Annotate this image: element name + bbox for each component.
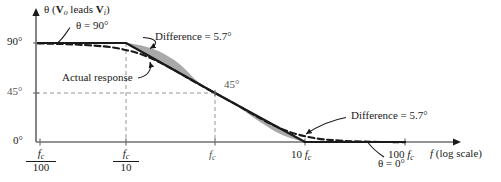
xtick-10fc-sub: c xyxy=(308,153,312,162)
annotation-theta-90: θ = 90° xyxy=(76,20,108,31)
idealized-response-curve xyxy=(38,43,405,142)
leader-theta-90 xyxy=(57,28,70,44)
xtick-fc-sub: c xyxy=(212,153,216,162)
y-axis-title-vo: V xyxy=(56,3,64,15)
xtick-fc-over-10-numerator: fc xyxy=(113,148,139,161)
annotation-theta-0: θ = 0° xyxy=(378,158,405,169)
y-axis-title-leads: leads xyxy=(68,3,96,15)
annotation-difference-lower: Difference = 5.7° xyxy=(351,110,428,121)
xtick-label-fc-over-10: fc 10 xyxy=(113,148,139,174)
y-axis-title-vi: V xyxy=(96,3,104,15)
leader-theta-0 xyxy=(368,143,384,158)
xtick-label-fc: fc xyxy=(209,149,216,162)
ytick-label-90: 90° xyxy=(7,36,22,47)
leader-difference-lower xyxy=(306,118,346,135)
y-axis-title: θ (Vo leads Vi) xyxy=(44,4,110,17)
ytick-label-0: 0° xyxy=(13,135,23,146)
annotation-difference-upper: Difference = 5.7° xyxy=(155,31,232,42)
x-axis-title: f (log scale) xyxy=(430,148,482,159)
xtick-fc-over-100-numerator: fc xyxy=(26,148,56,161)
xtick-10fc-prefix: 10 xyxy=(291,148,305,160)
xtick-100fc-sub: c xyxy=(410,153,414,162)
ytick-label-45: 45° xyxy=(7,86,22,97)
y-axis-arrowhead xyxy=(32,8,39,16)
xtick-fc-over-10-denominator: 10 xyxy=(113,161,139,174)
annotation-45deg: 45° xyxy=(224,79,239,90)
leader-actual-response xyxy=(138,62,151,78)
annotation-actual-response: Actual response xyxy=(62,72,133,83)
y-axis-title-close: ) xyxy=(106,3,110,15)
xtick-label-10fc: 10 fc xyxy=(291,149,311,162)
x-axis-arrowhead xyxy=(453,138,461,145)
x-axis-title-rest: (log scale) xyxy=(433,147,482,159)
xtick-label-fc-over-100: fc 100 xyxy=(26,148,56,174)
xtick-fc-over-100-denominator: 100 xyxy=(26,161,56,174)
